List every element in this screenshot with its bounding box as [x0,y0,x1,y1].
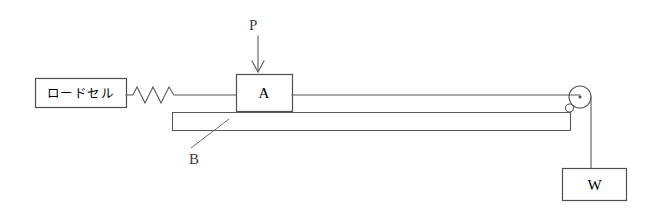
block-a-label-wrap: A [236,75,292,111]
cord-guide-ring-icon [566,104,574,112]
weight-w-label: W [587,177,601,194]
load-cell-label-wrap: ロードセル [36,79,125,106]
bar-b-label: B [189,152,199,167]
load-cell-label: ロードセル [47,83,115,102]
block-a-label: A [259,85,270,102]
weight-w-label-wrap: W [563,169,626,201]
pulley-axle-dot-icon [578,95,581,98]
bar-b-leader-line [191,119,229,148]
bar-b-outline [173,113,571,131]
load-p-label: P [249,18,257,33]
spring-icon [126,87,236,103]
friction-apparatus-diagram: ロードセル A P B W [0,0,651,211]
